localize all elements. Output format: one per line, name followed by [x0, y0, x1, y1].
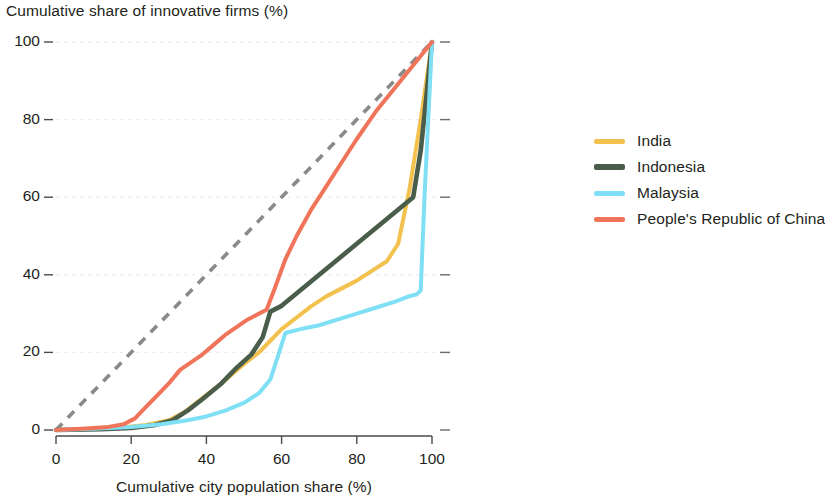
legend-swatch-icon [594, 139, 625, 144]
legend-swatch-icon [594, 164, 625, 170]
y-tick-label: 20 [0, 342, 40, 360]
equality-line [56, 42, 432, 430]
legend-label: People's Republic of China [637, 210, 825, 228]
x-tick-label: 80 [335, 450, 379, 468]
x-tick-label: 0 [34, 450, 78, 468]
y-tick-label: 60 [0, 187, 40, 205]
legend-swatch-icon [594, 191, 625, 196]
legend-swatch-icon [594, 217, 625, 222]
legend-item-people-s-republic-of-china[interactable]: People's Republic of China [594, 206, 820, 232]
legend-item-india[interactable]: India [594, 128, 820, 154]
x-tick-label: 20 [109, 450, 153, 468]
x-tick-label: 100 [410, 450, 454, 468]
legend-label: Malaysia [637, 184, 699, 202]
legend-item-malaysia[interactable]: Malaysia [594, 180, 820, 206]
y-tick-label: 80 [0, 110, 40, 128]
x-tick-label: 60 [260, 450, 304, 468]
y-tick-label: 100 [0, 32, 40, 50]
y-tick-label: 0 [0, 420, 40, 438]
legend-label: Indonesia [637, 158, 705, 176]
legend-label: India [637, 132, 671, 150]
x-axis-title: Cumulative city population share (%) [56, 478, 432, 496]
x-tick-label: 40 [184, 450, 228, 468]
legend-item-indonesia[interactable]: Indonesia [594, 154, 820, 180]
y-tick-label: 40 [0, 265, 40, 283]
chart-legend: IndiaIndonesiaMalaysiaPeople's Republic … [594, 128, 820, 232]
